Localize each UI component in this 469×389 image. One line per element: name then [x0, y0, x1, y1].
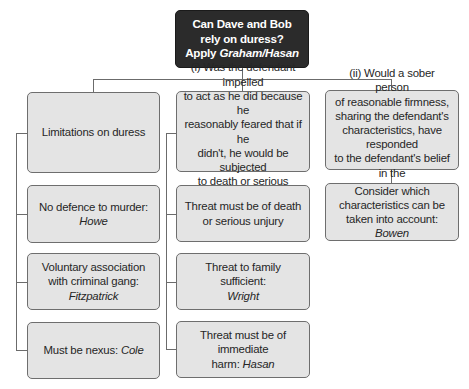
node-text-line-5: to the defendant's belief in the — [331, 151, 453, 179]
root-question-node: Can Dave and Bob rely on duress? Apply G… — [175, 10, 309, 68]
node-text-line-3: reasonably feared that if he — [182, 117, 304, 145]
node-text: Must be nexus: — [43, 344, 120, 356]
connector-col2-branch-3 — [166, 282, 176, 283]
node-text-line-1: (ii) Would a sober person — [331, 66, 453, 94]
node-text-line-2: or serious unjury — [203, 214, 284, 228]
connector-col2-branch-2 — [166, 214, 176, 215]
node-threat-death-injury: Threat must be of death or serious unjur… — [176, 185, 310, 242]
root-line-3: Apply Graham/Hasan — [185, 46, 299, 61]
node-text-line-3: taken into account: — [346, 212, 438, 226]
node-text-line-1: Voluntary association — [42, 260, 145, 274]
connector-col1-branch-3 — [16, 282, 27, 283]
node-threat-immediate-harm: Threat must be of immediate harm: Hasan — [176, 321, 310, 378]
node-case-name: Howe — [79, 214, 107, 228]
root-case-name: Graham/Hasan — [219, 46, 298, 59]
connector-col2-branch-1 — [166, 133, 176, 134]
node-text-line-4: didn't, he would be subjected — [182, 146, 304, 174]
node-text-line-1: (i) Was the defendant impelled — [182, 60, 304, 88]
node-text-line-2: with criminal gang: — [48, 274, 139, 288]
node-text: Threat to family sufficient: — [182, 260, 304, 288]
node-text-line-2: characteristics can be — [339, 198, 445, 212]
node-case-name: Bowen — [375, 226, 409, 240]
connector-col1-branch-4 — [16, 350, 27, 351]
node-text: Limitations on duress — [42, 125, 145, 139]
node-consider-characteristics: Consider which characteristics can be ta… — [325, 183, 459, 241]
connector-col1-spine — [16, 133, 17, 351]
node-text-line-2: to act as he did because he — [182, 89, 304, 117]
connector-col2-branch-4 — [166, 349, 176, 350]
connector-col1-branch-2 — [16, 214, 27, 215]
node-case-name: Hasan — [243, 358, 275, 370]
connector-col1-branch-1 — [16, 133, 27, 134]
node-case-name: Fitzpatrick — [69, 289, 119, 303]
root-line-2: rely on duress? — [200, 32, 283, 47]
node-text-line-2: of reasonable firmness, — [335, 95, 449, 109]
node-threat-to-family: Threat to family sufficient: Wright — [176, 253, 310, 310]
node-voluntary-association: Voluntary association with criminal gang… — [27, 253, 160, 310]
node-text-wrap: Must be nexus: Cole — [43, 343, 143, 357]
node-limitations-on-duress: Limitations on duress — [27, 92, 160, 173]
node-must-be-nexus: Must be nexus: Cole — [27, 322, 160, 379]
node-text-line-3: sharing the defendant's — [335, 109, 448, 123]
node-text-prefix: harm: — [211, 358, 242, 370]
node-question-ii: (ii) Would a sober person of reasonable … — [325, 90, 459, 170]
connector-col2-spine — [166, 133, 167, 350]
node-text-line-2: harm: Hasan — [211, 357, 274, 371]
node-case-name: Cole — [121, 344, 144, 356]
node-no-defence-to-murder: No defence to murder: Howe — [27, 185, 160, 243]
root-apply-label: Apply — [185, 46, 219, 59]
node-text-line-1: Consider which — [354, 184, 429, 198]
connector-col1-down — [93, 79, 94, 92]
node-text-line-4: characteristics, have responded — [331, 123, 453, 151]
root-line-1: Can Dave and Bob — [192, 17, 291, 32]
node-text-line-1: Threat must be of death — [185, 199, 301, 213]
node-text-line-1: Threat must be of immediate — [182, 328, 304, 356]
node-case-name: Wright — [227, 289, 259, 303]
node-text: No defence to murder: — [39, 200, 148, 214]
node-question-i: (i) Was the defendant impelled to act as… — [176, 91, 310, 172]
